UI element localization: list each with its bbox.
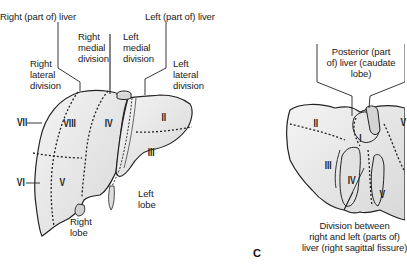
segment-V-edge-visceral: V <box>401 117 407 128</box>
segment-VIII: VIII <box>63 118 76 129</box>
label-left-lobe: Left lobe <box>138 188 156 210</box>
segment-VI: VI <box>17 177 25 188</box>
segment-V-visceral: V <box>380 189 386 200</box>
segment-IV: IV <box>105 118 113 129</box>
segment-V: V <box>60 177 66 188</box>
label-division-right-sagittal-fissure: Division between right and left (parts o… <box>302 220 407 253</box>
label-posterior-part-caudate-lobe: Posterior (part of) liver (caudate lobe) <box>316 46 406 79</box>
label-right-lateral-division: Right lateral division <box>30 58 61 91</box>
panel-letter: C <box>253 247 261 259</box>
segment-III: III <box>148 147 155 158</box>
segment-I-visceral: I <box>359 133 361 144</box>
segment-II: II <box>161 112 166 123</box>
segment-IV-visceral: IV <box>348 175 356 186</box>
label-left-part-of-liver: Left (part of) liver <box>145 11 215 22</box>
label-left-lateral-division: Left lateral division <box>173 58 204 91</box>
label-right-lobe: Right lobe <box>70 216 92 238</box>
segment-VII: VII <box>17 117 27 128</box>
segment-II-visceral: II <box>313 118 318 129</box>
segment-III-visceral: III <box>325 160 332 171</box>
anterior-liver-view <box>26 22 192 236</box>
label-right-part-of-liver: Right (part of) liver <box>0 11 76 22</box>
label-right-medial-division: Right medial division <box>78 31 109 64</box>
label-left-medial-division: Left medial division <box>123 31 154 64</box>
